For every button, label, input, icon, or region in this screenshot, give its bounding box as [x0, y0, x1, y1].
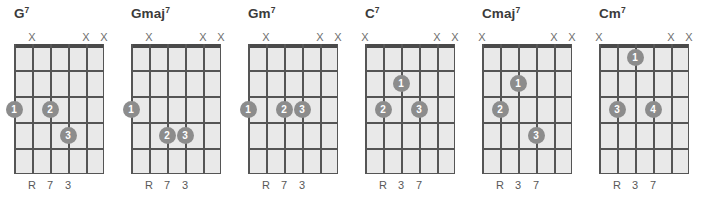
fret-line [365, 96, 455, 98]
string-line [482, 44, 484, 174]
finger-dot: 2 [42, 101, 59, 118]
fret-line [599, 96, 689, 98]
interval-label: 3 [511, 178, 525, 192]
muted-string-icon: X [665, 31, 677, 43]
string-line [536, 44, 538, 174]
fret-line [248, 96, 338, 98]
fretboard-grid: 123 [365, 44, 455, 174]
fretboard-grid: 123 [248, 44, 338, 174]
chord-diagram: C7XXX123R37 [351, 0, 468, 205]
finger-dot: 4 [645, 101, 662, 118]
fret-line [248, 148, 338, 150]
string-line [266, 44, 268, 174]
chord-quality-label: 7 [515, 5, 520, 15]
muted-string-icon: X [260, 31, 272, 43]
fret-line [599, 148, 689, 150]
chord-quality-label: 7 [375, 5, 380, 15]
string-line [203, 44, 205, 174]
string-line [365, 44, 367, 174]
string-marker-row: XXX [131, 31, 221, 43]
finger-dot: 1 [393, 75, 410, 92]
chord-root-label: G [14, 6, 25, 21]
fret-line [365, 122, 455, 124]
interval-label: R [259, 178, 273, 192]
muted-string-icon: X [98, 31, 110, 43]
fret-line [131, 173, 221, 175]
fret-line [482, 122, 572, 124]
interval-label: R [376, 178, 390, 192]
finger-dot: 3 [294, 101, 311, 118]
fret-line [482, 148, 572, 150]
fret-line [131, 148, 221, 150]
muted-string-icon: X [332, 31, 344, 43]
interval-label-row: R73 [131, 178, 221, 192]
interval-label-row: R37 [365, 178, 455, 192]
chord-name: C7 [365, 7, 380, 21]
chord-quality-label: 7 [621, 5, 626, 15]
fret-line [599, 173, 689, 175]
string-marker-row: XXX [14, 31, 104, 43]
muted-string-icon: X [26, 31, 38, 43]
string-line [671, 44, 673, 174]
nut-bar [248, 44, 338, 48]
string-line [103, 44, 105, 174]
finger-dot: 2 [375, 101, 392, 118]
string-line [167, 44, 169, 174]
fret-line [14, 148, 104, 150]
chord-diagram: Gm7XXX123R73 [234, 0, 351, 205]
muted-string-icon: X [80, 31, 92, 43]
string-line [554, 44, 556, 174]
fret-line [14, 70, 104, 72]
chord-name: Cm7 [599, 7, 626, 21]
interval-label: 7 [43, 178, 57, 192]
fretboard-grid: 134 [599, 44, 689, 174]
fret-line [599, 122, 689, 124]
fret-line [14, 173, 104, 175]
chord-diagram: Cm7XXX134R37 [585, 0, 702, 205]
fret-line [248, 70, 338, 72]
string-marker-row: XXX [365, 31, 455, 43]
interval-label: 3 [628, 178, 642, 192]
muted-string-icon: X [314, 31, 326, 43]
muted-string-icon: X [683, 31, 695, 43]
fret-line [482, 70, 572, 72]
chord-name: Gmaj7 [131, 7, 170, 21]
chord-name: G7 [14, 7, 29, 21]
string-line [571, 44, 573, 174]
interval-label-row: R73 [248, 178, 338, 192]
interval-label: 3 [295, 178, 309, 192]
fret-line [482, 96, 572, 98]
interval-label: R [493, 178, 507, 192]
string-line [320, 44, 322, 174]
chord-root-label: C [365, 6, 375, 21]
string-line [220, 44, 222, 174]
chord-root-label: Gmaj [131, 6, 165, 21]
interval-label: 3 [394, 178, 408, 192]
fret-line [365, 148, 455, 150]
string-line [86, 44, 88, 174]
chord-diagram: G7XXX123R73 [0, 0, 117, 205]
interval-label: R [610, 178, 624, 192]
string-line [454, 44, 456, 174]
finger-dot: 1 [123, 101, 140, 118]
fretboard-grid: 123 [482, 44, 572, 174]
fret-line [365, 70, 455, 72]
muted-string-icon: X [359, 31, 371, 43]
string-line [32, 44, 34, 174]
finger-dot: 1 [627, 49, 644, 66]
interval-label-row: R73 [14, 178, 104, 192]
finger-dot: 1 [510, 75, 527, 92]
chord-quality-label: 7 [271, 5, 276, 15]
chord-name: Cmaj7 [482, 7, 520, 21]
interval-label: 3 [61, 178, 75, 192]
muted-string-icon: X [449, 31, 461, 43]
interval-label-row: R37 [599, 178, 689, 192]
string-line [401, 44, 403, 174]
interval-label-row: R37 [482, 178, 572, 192]
fret-line [248, 173, 338, 175]
nut-bar [599, 44, 689, 48]
interval-label: 7 [646, 178, 660, 192]
nut-bar [365, 44, 455, 48]
interval-label: 3 [178, 178, 192, 192]
finger-dot: 1 [240, 101, 257, 118]
